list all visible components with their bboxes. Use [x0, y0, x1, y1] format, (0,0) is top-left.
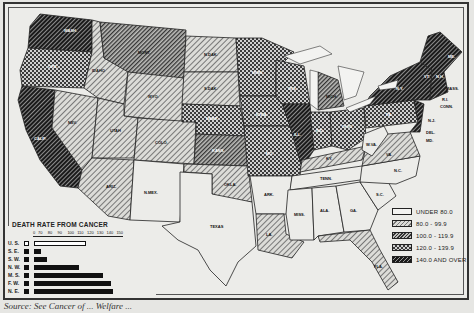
bar-category-label: M. S.	[8, 272, 24, 278]
label-minn: MINN.	[252, 70, 263, 75]
label-ndak: N.DAK.	[204, 52, 218, 57]
axis-tick-label: 90	[58, 230, 62, 235]
label-utah: UTAH	[110, 128, 121, 133]
bar-row: S. W.	[8, 256, 47, 262]
bar-base-square	[24, 273, 29, 278]
bar	[34, 241, 86, 246]
label-del: DEL.	[426, 130, 435, 135]
bar-category-label: U. S.	[8, 240, 24, 246]
bar-category-label: N. W.	[8, 264, 24, 270]
label-okla: OKLA.	[224, 182, 236, 187]
legend-swatch-120-139	[392, 244, 412, 251]
label-tenn: TENN.	[320, 176, 332, 181]
axis-tick-label: 120	[87, 230, 94, 235]
legend-swatch-100-119	[392, 232, 412, 239]
label-vt: VT.	[424, 74, 430, 79]
axis-tick-label: 70	[38, 230, 42, 235]
legend-swatch-140-over	[392, 256, 412, 263]
label-mont: MONT.	[138, 50, 150, 55]
bar	[34, 273, 103, 278]
label-mich: MICH.	[326, 94, 337, 99]
bar-row: F. W.	[8, 280, 111, 286]
legend-label: 120.0 - 139.9	[416, 245, 454, 251]
bar-row: U. S.	[8, 240, 86, 246]
label-va: VA.	[386, 152, 392, 157]
label-mass: MASS.	[446, 86, 459, 91]
label-nev: NEV.	[68, 120, 77, 125]
label-ny: N.Y.	[396, 86, 403, 91]
label-ohio: OHIO	[342, 124, 352, 129]
label-sdak: S.DAK.	[204, 86, 218, 91]
label-fla: FLA.	[374, 264, 383, 269]
bar-base-square	[24, 289, 29, 294]
label-miss: MISS.	[294, 212, 305, 217]
label-nh: N.H.	[436, 74, 444, 79]
label-mo: MO.	[266, 151, 274, 156]
bar	[34, 289, 113, 294]
bar-row: M. S.	[8, 272, 103, 278]
legend-label: 100.0 - 119.9	[416, 233, 454, 239]
bar-row: N. E.	[8, 288, 113, 294]
bar	[34, 281, 111, 286]
bar-base-square	[24, 249, 29, 254]
bar-base-square	[24, 241, 29, 246]
label-ill: ILL.	[294, 132, 301, 137]
legend-swatch-80-99	[392, 220, 412, 227]
map-legend: UNDER 80.0 80.0 - 99.9 100.0 - 119.9 120…	[392, 206, 472, 266]
legend-item: 140.0 AND OVER	[392, 254, 472, 265]
bar-base-square	[24, 281, 29, 286]
label-texas: TEXAS	[210, 224, 224, 229]
state-ny	[364, 62, 432, 106]
label-wva: W.VA.	[366, 142, 377, 147]
label-md: MD.	[426, 138, 433, 143]
state-wis	[276, 60, 310, 104]
legend-item: 120.0 - 139.9	[392, 242, 472, 253]
source-caption: Source: See Cancer of ... Welfare ...	[4, 301, 132, 311]
bar-row: S. E.	[8, 248, 41, 254]
state-ariz	[78, 158, 134, 220]
legend-label: 140.0 AND OVER	[416, 257, 467, 263]
bar-category-label: F. W.	[8, 280, 24, 286]
bar-chart-title: DEATH RATE FROM CANCER	[12, 221, 108, 228]
label-ga: GA.	[350, 208, 357, 213]
label-colo: COLO.	[155, 140, 168, 145]
label-kans: KANS.	[212, 148, 224, 153]
label-nc: N.C.	[394, 168, 402, 173]
label-nj: N.J.	[428, 118, 435, 123]
bar-base-square	[24, 265, 29, 270]
bar-base-square	[24, 257, 29, 262]
legend-swatch-under-80	[392, 208, 412, 215]
label-ore: ORE.	[48, 64, 58, 69]
legend-item: 80.0 - 99.9	[392, 218, 472, 229]
state-fla	[318, 230, 398, 290]
state-ohio	[330, 108, 366, 150]
bar-category-label: S. E.	[8, 248, 24, 254]
bar	[34, 257, 47, 262]
axis-tick-label: 130	[97, 230, 104, 235]
label-calif: CALIF.	[34, 136, 46, 141]
label-ala: ALA.	[320, 208, 329, 213]
bar-category-label: S. W.	[8, 256, 24, 262]
label-pa: PA.	[386, 112, 392, 117]
axis-tick-label: 100	[67, 230, 74, 235]
axis-tick-label: 140	[107, 230, 114, 235]
label-ariz: ARIZ.	[106, 184, 116, 189]
lake-superior	[284, 46, 332, 64]
label-conn: CONN.	[440, 104, 453, 109]
label-la: LA.	[266, 232, 272, 237]
bar	[34, 249, 41, 254]
bar-category-label: N. E.	[8, 288, 24, 294]
legend-item: UNDER 80.0	[392, 206, 472, 217]
label-ri: R.I.	[442, 97, 448, 102]
lake-michigan	[310, 70, 318, 110]
label-ark: ARK.	[264, 192, 274, 197]
axis-tick-label: 110	[77, 230, 83, 235]
death-rate-bar-chart: DEATH RATE FROM CANCER 07080901001101201…	[8, 226, 156, 296]
label-me: ME.	[448, 54, 455, 59]
legend-item: 100.0 - 119.9	[392, 230, 472, 241]
axis-tick-label: 80	[48, 230, 52, 235]
label-ky: KY.	[326, 156, 332, 161]
axis-tick-label: 150	[116, 230, 123, 235]
legend-label: 80.0 - 99.9	[416, 221, 447, 227]
axis-line	[33, 236, 123, 237]
